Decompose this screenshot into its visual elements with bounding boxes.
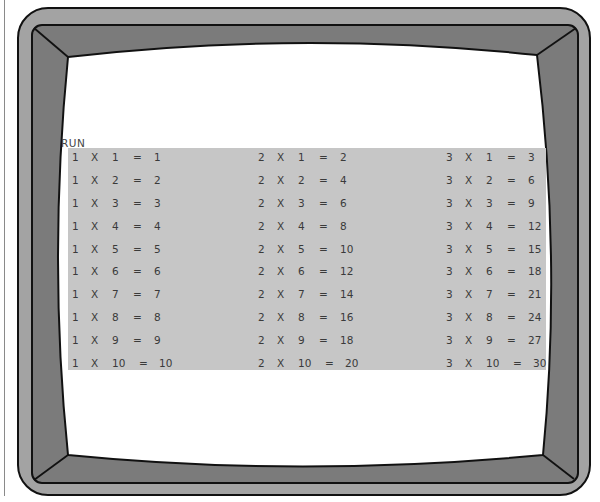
terminal-screen: RUN 1X1=1 1X2=2 1X3=3 1X4=4 1X5=5 1X6=6 … xyxy=(0,0,600,502)
